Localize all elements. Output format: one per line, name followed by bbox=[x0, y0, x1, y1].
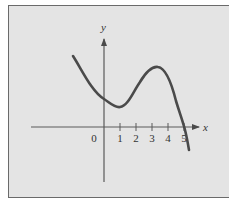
graph: 0 1 2 3 4 5 x y bbox=[0, 0, 229, 203]
tick-label-1: 1 bbox=[117, 132, 123, 144]
y-axis-label: y bbox=[100, 21, 106, 33]
tick-label-4: 4 bbox=[165, 132, 171, 144]
tick-label-0: 0 bbox=[91, 132, 97, 144]
tick-label-3: 3 bbox=[149, 132, 155, 144]
x-axis-label: x bbox=[202, 121, 208, 133]
tick-label-2: 2 bbox=[133, 132, 139, 144]
